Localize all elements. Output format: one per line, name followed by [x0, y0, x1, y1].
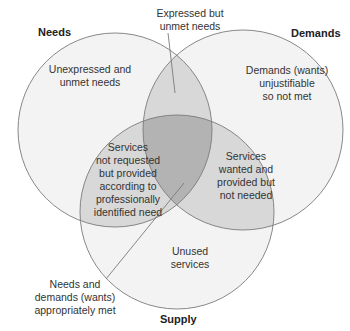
- supply-title: Supply: [160, 313, 197, 325]
- needs-title: Needs: [38, 26, 71, 38]
- label-expressed-unmet-needs: Expressed but unmet needs: [135, 7, 245, 33]
- demands-title: Demands: [291, 27, 341, 39]
- label-services-wanted-not-needed: Services wanted and provided but not nee…: [196, 150, 296, 202]
- label-unexpressed-unmet-needs: Unexpressed and unmet needs: [40, 63, 140, 89]
- label-unused-services: Unused services: [150, 245, 230, 271]
- label-demands-unjustifiable: Demands (wants) unjustifiable so not met: [232, 64, 342, 103]
- label-services-not-requested: Services not requested but provided acco…: [78, 141, 178, 219]
- label-needs-demands-met: Needs and demands (wants) appropriately …: [30, 278, 120, 317]
